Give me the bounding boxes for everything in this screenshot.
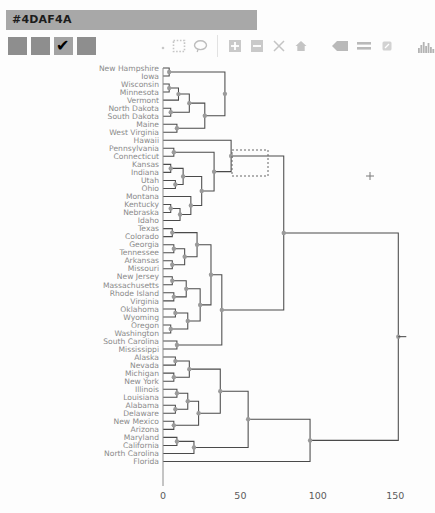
dendrogram-node[interactable] <box>181 174 185 178</box>
swatch-3[interactable]: ✔ <box>54 37 73 55</box>
pointer-dot-icon[interactable] <box>160 44 164 48</box>
dendrogram-node[interactable] <box>172 423 176 427</box>
dendrogram-node[interactable] <box>173 359 177 363</box>
dendrogram-node[interactable] <box>172 150 176 154</box>
dendrogram-node[interactable] <box>175 391 179 395</box>
dendrogram-node[interactable] <box>167 86 171 90</box>
dendrogram-node[interactable] <box>172 295 176 299</box>
dendrogram-node[interactable] <box>184 287 188 291</box>
dendrogram-node[interactable] <box>173 182 177 186</box>
back-arrow-icon[interactable] <box>331 39 349 54</box>
dendrogram-link <box>177 103 205 128</box>
axis-tick-label: 150 <box>386 490 404 501</box>
dendrogram-link <box>163 196 191 214</box>
dendrogram-node[interactable] <box>218 389 222 393</box>
dendrogram-link <box>189 369 220 413</box>
marquee-select-icon[interactable] <box>171 39 186 54</box>
dendrogram-node[interactable] <box>175 126 179 130</box>
dendrogram-link <box>163 441 194 453</box>
dendrogram-node[interactable] <box>175 439 179 443</box>
dendrogram-node[interactable] <box>187 367 191 371</box>
swatch-row: ✔ <box>8 37 96 55</box>
swatch-2[interactable] <box>31 37 50 55</box>
dendrogram-link <box>171 94 190 112</box>
chart-toolbar <box>160 36 435 56</box>
swatch-1[interactable] <box>8 37 27 55</box>
dendrogram-link <box>177 275 222 345</box>
dendrogram-links <box>163 68 398 461</box>
zoom-in-icon[interactable] <box>227 39 242 54</box>
dendrogram-node[interactable] <box>170 230 174 234</box>
dendrogram-node[interactable] <box>167 70 171 74</box>
zoom-out-icon[interactable] <box>249 39 264 54</box>
dendrogram-plot[interactable]: New HampshireIowaWisconsinMinnesotaVermo… <box>0 60 435 513</box>
home-reset-icon[interactable] <box>293 39 308 54</box>
dendrogram-node[interactable] <box>172 375 176 379</box>
dendrogram-node[interactable] <box>187 101 191 105</box>
toolbar-divider <box>217 35 218 57</box>
axis-tick-label: 100 <box>309 490 327 501</box>
dendrogram-node[interactable] <box>195 242 199 246</box>
dendrogram-node[interactable] <box>173 311 177 315</box>
dendrogram-node[interactable] <box>169 327 173 331</box>
dendrogram-node[interactable] <box>175 343 179 347</box>
dendrogram-link <box>222 156 284 310</box>
dendrogram-link <box>174 152 214 191</box>
dendrogram-node[interactable] <box>186 319 190 323</box>
dendrogram-app: #4DAF4A ✔ <box>0 0 435 513</box>
swatch-4[interactable] <box>77 37 96 55</box>
dendrogram-link <box>183 176 202 205</box>
check-icon: ✔ <box>56 37 69 55</box>
color-code-label: #4DAF4A <box>12 12 72 28</box>
dendrogram-node[interactable] <box>192 445 196 449</box>
dendrogram-node[interactable] <box>246 417 250 421</box>
cursor-plus-icon <box>366 172 374 180</box>
dendrogram-node[interactable] <box>173 407 177 411</box>
dendrogram-node[interactable] <box>169 166 173 170</box>
lasso-select-icon[interactable] <box>193 39 208 54</box>
dendrogram-node[interactable] <box>196 411 200 415</box>
dendrogram-node[interactable] <box>186 399 190 403</box>
dendrogram-node[interactable] <box>223 92 227 96</box>
dendrogram-node[interactable] <box>209 273 213 277</box>
dendrogram-node[interactable] <box>172 246 176 250</box>
dendrogram-node[interactable] <box>282 231 286 235</box>
dendrogram-node[interactable] <box>198 303 202 307</box>
dendrogram-link <box>163 88 178 100</box>
dendrogram-link <box>194 391 248 447</box>
axis-tick-label: 50 <box>234 490 246 501</box>
dendrogram-node[interactable] <box>169 206 173 210</box>
dendrogram-node[interactable] <box>169 110 173 114</box>
dendrogram-link <box>174 361 189 377</box>
cut-scissors-icon[interactable] <box>271 39 286 54</box>
dendrogram-node[interactable] <box>189 203 193 207</box>
dendrogram-node[interactable] <box>200 189 204 193</box>
dendrogram-link <box>174 401 199 425</box>
eraser-icon[interactable] <box>379 39 394 54</box>
dendrogram-node[interactable] <box>170 279 174 283</box>
dendrogram-node[interactable] <box>182 255 186 259</box>
axis-tick-label: 0 <box>160 490 166 501</box>
x-axis: 050100150 <box>160 68 404 501</box>
dendrogram-node[interactable] <box>212 169 216 173</box>
dendrogram-link <box>171 313 188 329</box>
list-lines-icon[interactable] <box>356 39 372 54</box>
node-selection-box[interactable] <box>232 150 268 176</box>
leaf-label: Florida <box>133 457 159 466</box>
dendrogram-node[interactable] <box>170 263 174 267</box>
dendrogram-node[interactable] <box>308 438 312 442</box>
dendrogram-node[interactable] <box>178 212 182 216</box>
dendrogram-node[interactable] <box>176 92 180 96</box>
dendrogram-svg[interactable]: New HampshireIowaWisconsinMinnesotaVermo… <box>0 60 435 513</box>
dendrogram-node[interactable] <box>203 113 207 117</box>
dendrogram-link <box>284 233 399 440</box>
histogram-icon[interactable] <box>417 39 435 54</box>
dendrogram-node[interactable] <box>220 308 224 312</box>
dendrogram-node[interactable] <box>229 154 233 158</box>
